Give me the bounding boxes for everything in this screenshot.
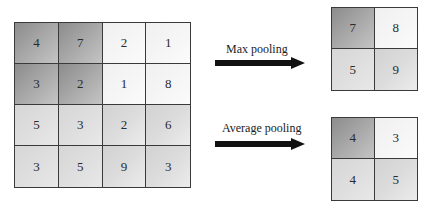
right-arrow-icon [215, 138, 305, 150]
input-cell-3-1: 5 [59, 146, 103, 187]
input-cell-0-2: 2 [103, 23, 147, 64]
max-cell-1-1: 9 [375, 49, 418, 90]
input-cell-1-3: 8 [146, 64, 190, 105]
max-cell-1-0: 5 [332, 49, 375, 90]
avg-cell-1-0: 4 [332, 159, 375, 200]
average-pooling-label: Average pooling [222, 121, 301, 136]
input-cell-2-1: 3 [59, 105, 103, 146]
input-cell-0-1: 7 [59, 23, 103, 64]
max-cell-0-0: 7 [332, 8, 375, 49]
input-cell-3-2: 9 [103, 146, 147, 187]
right-arrow-icon [215, 57, 305, 69]
input-cell-2-2: 2 [103, 105, 147, 146]
input-cell-3-0: 3 [15, 146, 59, 187]
input-cell-0-0: 4 [15, 23, 59, 64]
max-pooling-output: 7 8 5 9 [331, 7, 418, 91]
input-cell-1-2: 1 [103, 64, 147, 105]
average-pooling-output: 4 3 4 5 [331, 117, 418, 201]
avg-cell-0-0: 4 [332, 118, 375, 159]
input-cell-1-0: 3 [15, 64, 59, 105]
max-pooling-label: Max pooling [226, 42, 288, 57]
avg-cell-1-1: 5 [375, 159, 418, 200]
input-cell-0-3: 1 [146, 23, 190, 64]
input-feature-map: 4 7 2 1 3 2 1 8 5 3 2 6 3 5 9 3 [14, 22, 191, 188]
input-cell-2-3: 6 [146, 105, 190, 146]
max-cell-0-1: 8 [375, 8, 418, 49]
input-cell-2-0: 5 [15, 105, 59, 146]
input-cell-1-1: 2 [59, 64, 103, 105]
avg-cell-0-1: 3 [375, 118, 418, 159]
input-cell-3-3: 3 [146, 146, 190, 187]
